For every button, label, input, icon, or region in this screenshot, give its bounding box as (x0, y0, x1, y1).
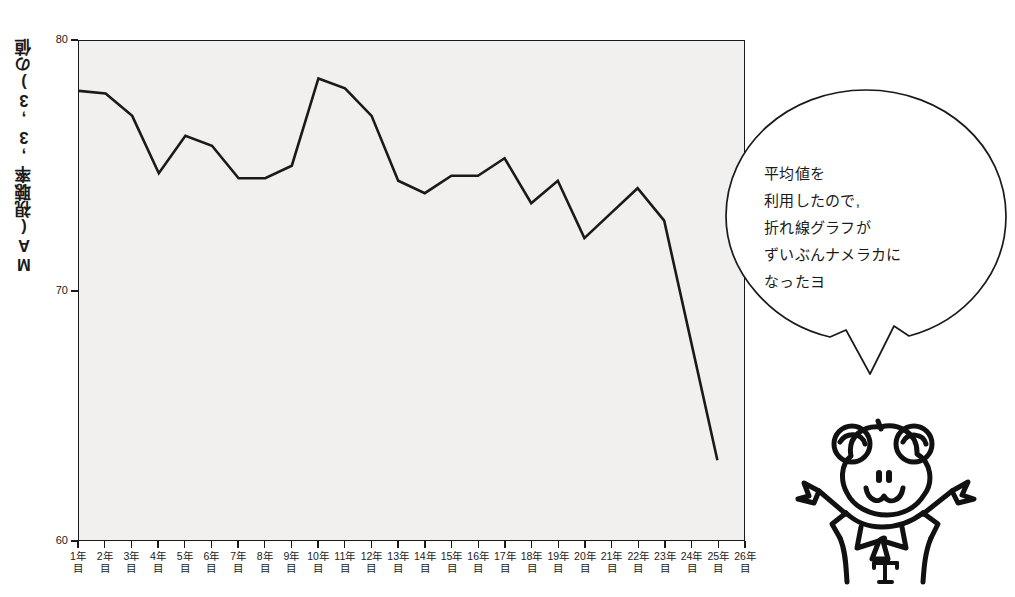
x-tick-mark-24 (691, 541, 692, 548)
balloon-line-1: 平均値を (764, 160, 979, 187)
x-tick-mark-22 (638, 541, 639, 548)
y-tick-label-60: 60 (42, 534, 68, 546)
x-tick-mark-7 (237, 541, 238, 548)
x-tick-mark-14 (424, 541, 425, 548)
x-tick-mark-4 (157, 541, 158, 548)
x-tick-mark-18 (531, 541, 532, 548)
chart-page: MA(視聴率,3,3)の値 80 70 60 1年目2年目3年目4年目5年目6年… (0, 0, 1015, 597)
x-tick-mark-25 (718, 541, 719, 548)
x-tick-mark-23 (664, 541, 665, 548)
y-tick-mark-80 (71, 39, 78, 41)
y-tick-mark-70 (71, 290, 78, 292)
x-tick-mark-2 (104, 541, 105, 548)
x-tick-mark-11 (344, 541, 345, 548)
x-tick-mark-17 (504, 541, 505, 548)
x-tick-mark-1 (77, 541, 78, 548)
balloon-line-2: 利用したので, (764, 187, 979, 214)
x-tick-mark-12 (371, 541, 372, 548)
mascot-character (784, 396, 1000, 586)
y-tick-label-80: 80 (42, 33, 68, 45)
y-tick-label-70: 70 (42, 284, 68, 296)
mascot-frog-icon (784, 396, 1000, 586)
x-tick-mark-8 (264, 541, 265, 548)
line-series (79, 41, 744, 540)
balloon-text: 平均値を利用したので,折れ線グラフがずいぶんナメラカになったヨ (764, 160, 979, 295)
x-tick-mark-3 (131, 541, 132, 548)
x-tick-mark-13 (397, 541, 398, 548)
x-tick-mark-20 (584, 541, 585, 548)
x-tick-mark-10 (317, 541, 318, 548)
x-tick-mark-6 (211, 541, 212, 548)
balloon-line-3: 折れ線グラフが (764, 214, 979, 241)
x-tick-mark-9 (291, 541, 292, 548)
x-tick-mark-5 (184, 541, 185, 548)
plot-area (78, 40, 745, 541)
balloon-line-5: なったヨ (764, 268, 979, 295)
balloon-line-4: ずいぶんナメラカに (764, 241, 979, 268)
x-tick-mark-21 (611, 541, 612, 548)
x-tick-mark-26 (744, 541, 745, 548)
x-tick-mark-15 (451, 541, 452, 548)
x-tick-mark-16 (478, 541, 479, 548)
x-tick-mark-19 (558, 541, 559, 548)
x-tick-label-26: 26年目 (728, 551, 762, 574)
speech-balloon: 平均値を利用したので,折れ線グラフがずいぶんナメラカになったヨ (722, 68, 1010, 384)
